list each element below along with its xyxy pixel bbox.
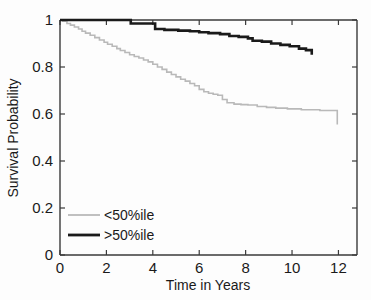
legend-label-above-median: >50%ile (104, 227, 154, 243)
x-tick-label: 10 (284, 259, 301, 276)
x-axis-title: Time in Years (166, 277, 250, 293)
y-tick-label: 0.8 (32, 58, 53, 75)
x-tick-label: 12 (330, 259, 347, 276)
kaplan-meier-chart: 024681012 00.20.40.60.81 Time in Years S… (0, 0, 371, 300)
x-tick-label: 6 (195, 259, 203, 276)
y-tick-label: 0.2 (32, 199, 53, 216)
x-tick-label: 8 (241, 259, 249, 276)
legend-label-below-median: <50%ile (104, 207, 154, 223)
y-tick-label: 0.4 (32, 152, 53, 169)
y-tick-label: 0 (45, 246, 53, 263)
y-tick-label: 1 (45, 11, 53, 28)
y-axis-title: Survival Probability (5, 78, 21, 197)
y-tick-label: 0.6 (32, 105, 53, 122)
x-tick-label: 0 (56, 259, 64, 276)
x-tick-label: 4 (149, 259, 157, 276)
x-tick-label: 2 (102, 259, 110, 276)
survival-plot-figure: 024681012 00.20.40.60.81 Time in Years S… (0, 0, 371, 300)
